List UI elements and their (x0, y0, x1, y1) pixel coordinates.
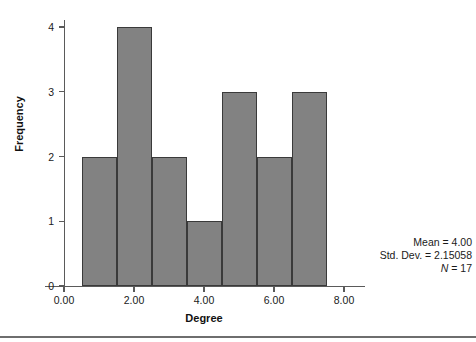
footer-rule (0, 336, 476, 338)
sample-size-label: N = 17 (350, 262, 472, 275)
histogram-bars (0, 0, 476, 342)
histogram-figure: 01234 0.002.004.006.008.00 Frequency Deg… (0, 0, 476, 342)
histogram-bar (292, 92, 327, 286)
statistics-annotation: Mean = 4.00 Std. Dev. = 2.15058 N = 17 (350, 236, 472, 275)
histogram-bar (187, 221, 222, 286)
std-dev-label: Std. Dev. = 2.15058 (350, 249, 472, 262)
histogram-bar (82, 157, 117, 287)
mean-label: Mean = 4.00 (350, 236, 472, 249)
histogram-bar (222, 92, 257, 286)
n-symbol: N (441, 262, 449, 274)
y-axis-title: Frequency (13, 74, 25, 174)
n-value: = 17 (451, 262, 472, 274)
histogram-bar (117, 27, 152, 286)
histogram-bar (257, 157, 292, 287)
histogram-bar (152, 157, 187, 287)
x-axis-title: Degree (64, 312, 344, 324)
